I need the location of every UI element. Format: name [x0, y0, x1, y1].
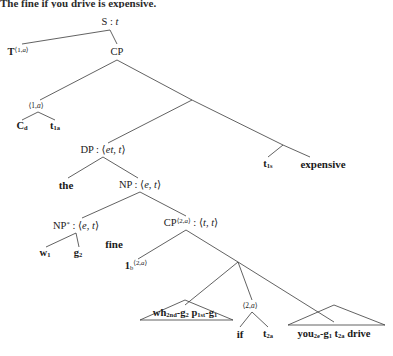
tree-edge-s-to-t1a: [22, 30, 110, 44]
tree-edge-cp2a-to-lam: [138, 230, 186, 259]
tree-node-idx1a: ⟨1,a⟩: [28, 102, 43, 110]
tree-node-w1: w1: [40, 248, 51, 259]
tree-node-t1a: T⟨1,a⟩: [7, 47, 28, 58]
figure-caption: The fine if you drive is expensive.: [0, 0, 393, 8]
tree-edge-low-to-whstr: [185, 262, 238, 305]
tree-edge-cp-to-idx1a: [40, 60, 117, 100]
tree-node-cp2a: CP⟨2,a⟩ : ⟨t, t⟩: [164, 218, 218, 229]
tree-node-youstr: you2e-g1 t2a drive: [297, 329, 370, 340]
tree-edge-mid-to-dp: [108, 100, 192, 143]
tree-edge-right2-to-t1s: [268, 145, 283, 157]
tree-edge-mid-to-right2: [192, 100, 283, 145]
tree-node-cp: CP: [111, 47, 124, 58]
tree-edge-npstar-to-g2: [76, 233, 79, 247]
tree-node-if: if: [237, 329, 244, 340]
tree-node-dp: DP : ⟨et, t⟩: [80, 145, 125, 156]
tree-edge-right2-to-expensive: [283, 145, 310, 157]
tree-edge-cp2a-to-low: [186, 230, 238, 262]
tree-edge-np-to-cp2a: [140, 192, 186, 216]
tree-node-expensive: expensive: [300, 159, 345, 170]
tree-node-idx2a: ⟨2,a⟩: [242, 302, 257, 310]
tree-node-npstar: NP* : ⟨e, t⟩: [53, 221, 99, 232]
tree-node-lam: 1b⟨2,a⟩: [125, 260, 148, 271]
tree-node-the: the: [59, 180, 74, 191]
tree-node-t1a_leaf: t1a: [50, 121, 60, 132]
tree-edge-idx2a-to-if: [240, 312, 252, 327]
tree-node-whstr: wh2nd-g2 p1st-g1: [153, 308, 217, 319]
tree-edge-npstar-to-w1: [46, 233, 76, 247]
tree-edge-dp-to-the: [68, 157, 103, 178]
tree-node-g2: g2: [74, 248, 83, 259]
tree-node-cd: Cd: [16, 121, 27, 132]
tree-edge-s-to-cp: [110, 30, 117, 44]
tree-node-fine: fine: [105, 239, 123, 250]
tree-edge-low-to-youstr: [238, 262, 334, 322]
syntax-tree-diagram: The fine if you drive is expensive. S : …: [0, 0, 393, 356]
tree-edge-idx2a-to-t2a: [252, 312, 268, 327]
tree-node-s: S : t: [102, 17, 119, 28]
tree-node-t1s: t1s: [263, 159, 272, 170]
tree-edge-np-to-npstar: [82, 192, 140, 218]
tree-node-np: NP : ⟨e, t⟩: [119, 180, 161, 191]
tree-edge-cp-to-mid: [117, 60, 192, 100]
you-string-triangle: [288, 305, 385, 325]
tree-edge-idx1a-to-cd: [22, 112, 38, 120]
tree-edge-dp-to-np: [103, 157, 138, 178]
tree-node-t2a: t2a: [263, 329, 273, 340]
tree-edge-low-to-idx2a: [238, 262, 252, 300]
